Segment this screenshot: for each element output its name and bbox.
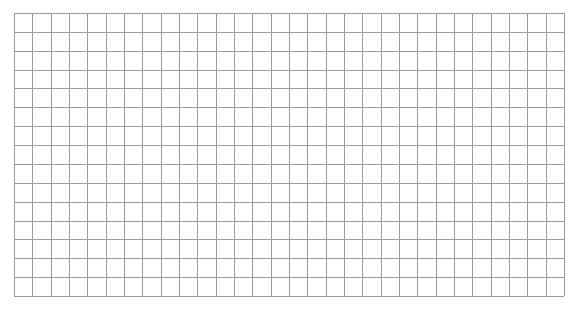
grid-line-horizontal xyxy=(14,202,564,203)
grid-line-vertical xyxy=(216,13,217,296)
grid-line-horizontal xyxy=(14,258,564,259)
grid-line-vertical xyxy=(179,13,180,296)
grid-line-vertical xyxy=(234,13,235,296)
grid-line-horizontal xyxy=(14,107,564,108)
grid-line-vertical xyxy=(307,13,308,296)
grid-paper xyxy=(14,13,564,296)
grid-line-vertical xyxy=(491,13,492,296)
grid-line-vertical xyxy=(106,13,107,296)
grid-line-vertical xyxy=(454,13,455,296)
grid-line-horizontal xyxy=(14,88,564,89)
grid-line-vertical xyxy=(14,13,15,296)
grid-line-vertical xyxy=(399,13,400,296)
grid-line-vertical xyxy=(509,13,510,296)
grid-line-horizontal xyxy=(14,145,564,146)
grid-line-horizontal xyxy=(14,13,564,14)
grid-line-vertical xyxy=(527,13,528,296)
grid-line-horizontal xyxy=(14,70,564,71)
grid-line-vertical xyxy=(161,13,162,296)
grid-line-horizontal xyxy=(14,296,564,297)
grid-line-vertical xyxy=(417,13,418,296)
grid-line-horizontal xyxy=(14,277,564,278)
grid-line-vertical xyxy=(271,13,272,296)
grid-line-horizontal xyxy=(14,126,564,127)
grid-line-horizontal xyxy=(14,183,564,184)
grid-line-vertical xyxy=(87,13,88,296)
grid-line-vertical xyxy=(472,13,473,296)
grid-line-vertical xyxy=(436,13,437,296)
grid-line-vertical xyxy=(326,13,327,296)
grid-line-vertical xyxy=(51,13,52,296)
grid-line-vertical xyxy=(344,13,345,296)
grid-line-vertical xyxy=(124,13,125,296)
grid-line-vertical xyxy=(197,13,198,296)
grid-line-horizontal xyxy=(14,239,564,240)
grid-line-vertical xyxy=(381,13,382,296)
grid-line-vertical xyxy=(362,13,363,296)
grid-line-horizontal xyxy=(14,221,564,222)
grid-line-vertical xyxy=(546,13,547,296)
grid-line-vertical xyxy=(564,13,565,296)
grid-line-horizontal xyxy=(14,32,564,33)
grid-line-vertical xyxy=(252,13,253,296)
grid-line-horizontal xyxy=(14,164,564,165)
grid-line-vertical xyxy=(32,13,33,296)
grid-line-vertical xyxy=(69,13,70,296)
grid-line-vertical xyxy=(142,13,143,296)
grid-line-horizontal xyxy=(14,51,564,52)
grid-line-vertical xyxy=(289,13,290,296)
